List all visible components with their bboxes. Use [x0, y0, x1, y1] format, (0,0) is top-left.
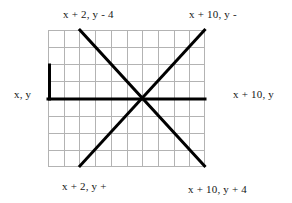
label-top-right: x + 10, y -: [189, 8, 237, 21]
label-bottom-left: x + 2, y +: [62, 180, 107, 193]
label-middle-right: x + 10, y: [233, 88, 274, 101]
label-bottom-right: x + 10, y + 4: [188, 183, 247, 196]
label-top-left: x + 2, y - 4: [63, 8, 114, 21]
label-middle-left: x, y: [14, 88, 31, 101]
grid-plot-area: [48, 30, 205, 167]
grid-svg: [48, 30, 205, 167]
coordinate-transformation-figure: x + 2, y - 4 x + 10, y - x, y x + 10, y …: [0, 0, 292, 203]
